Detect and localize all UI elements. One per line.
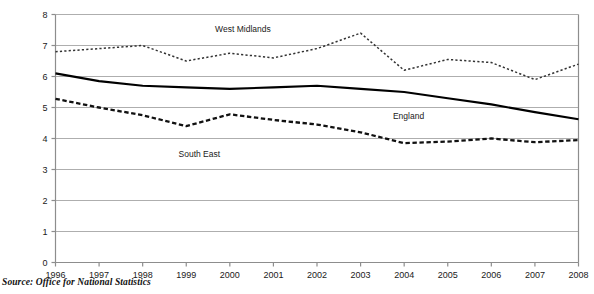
line-chart: 012345678 199619971998199920002001200220…	[0, 0, 594, 294]
y-tick-label: 6	[42, 72, 47, 82]
y-tick-label: 2	[42, 196, 47, 206]
x-tick-label: 2008	[568, 270, 588, 280]
y-tick-label: 0	[42, 258, 47, 268]
x-tick-label: 2007	[525, 270, 545, 280]
series-line-england	[56, 73, 579, 119]
source-note: Source: Office for National Statistics	[2, 277, 151, 287]
x-tick-label: 2004	[394, 270, 414, 280]
y-tick-label: 8	[42, 10, 47, 20]
y-tick-label: 3	[42, 165, 47, 175]
y-tick-label: 5	[42, 103, 47, 113]
y-tick-label: 7	[42, 41, 47, 51]
series-label-england: England	[393, 111, 424, 121]
x-tick-label: 2005	[438, 270, 458, 280]
x-tick-label: 2002	[307, 270, 327, 280]
series-line-west-midlands	[56, 33, 579, 80]
series-label-west-midlands: West Midlands	[215, 24, 271, 34]
y-tick-label: 4	[42, 134, 47, 144]
y-tick-label: 1	[42, 227, 47, 237]
axes	[52, 15, 579, 267]
series-label-south-east: South East	[179, 149, 221, 159]
x-tick-label: 2003	[351, 270, 371, 280]
x-tick-label: 2001	[263, 270, 283, 280]
x-tick-label: 1999	[176, 270, 196, 280]
x-tick-label: 2000	[220, 270, 240, 280]
x-tick-label: 2006	[481, 270, 501, 280]
y-axis-tick-labels: 012345678	[42, 10, 47, 268]
chart-container: 012345678 199619971998199920002001200220…	[0, 0, 594, 294]
data-series-layer	[56, 33, 579, 143]
